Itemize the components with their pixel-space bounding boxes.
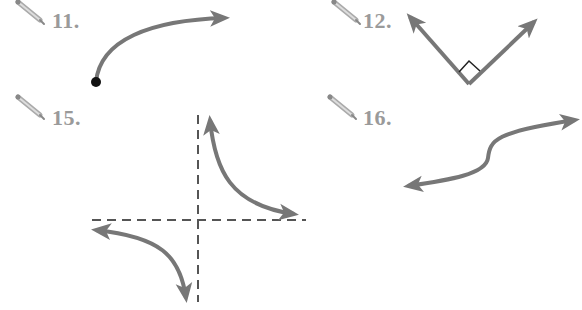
endpoint-dot (91, 77, 101, 87)
ray-left (410, 17, 469, 84)
pencil-icon (332, 0, 361, 24)
pencil-icon (16, 95, 45, 120)
pencil-icon (328, 95, 357, 120)
exercise-figures (0, 0, 582, 310)
exercise-number: 12. (363, 8, 392, 34)
exercise-11 (16, 0, 226, 87)
hyperbola-lower-branch (96, 230, 186, 298)
s-curve (408, 120, 575, 186)
curve-ray (96, 18, 225, 82)
pencil-icon (16, 0, 45, 24)
hyperbola-upper-branch (210, 120, 294, 214)
exercise-number: 11. (52, 8, 80, 34)
exercise-12 (332, 0, 535, 84)
ray-right (469, 22, 534, 84)
exercise-number: 16. (363, 105, 392, 131)
exercise-number: 15. (52, 105, 81, 131)
right-angle-mark (459, 61, 480, 72)
